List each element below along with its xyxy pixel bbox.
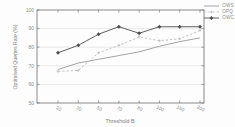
marker-diamond bbox=[117, 25, 121, 29]
legend-marker-diamond bbox=[210, 16, 214, 20]
x-tick-label: 20 bbox=[55, 105, 62, 112]
x-tick-label: 80 bbox=[136, 105, 143, 112]
x-tick-label: 200 bbox=[196, 105, 206, 113]
marker-diamond bbox=[178, 25, 182, 29]
y-tick-label: 60 bbox=[28, 81, 34, 87]
legend-entry-owc: OWC bbox=[203, 15, 234, 21]
y-tick-labels: 5060708090100 bbox=[26, 7, 35, 106]
gridlines bbox=[37, 29, 204, 85]
x-tick-labels: 2030507080100150200 bbox=[55, 105, 206, 113]
x-tick-label: 50 bbox=[96, 105, 103, 112]
x-axis-title: Threshold B bbox=[105, 118, 134, 124]
marker-diamond bbox=[137, 31, 141, 35]
series-line-ows bbox=[58, 38, 200, 70]
legend-line-sample bbox=[203, 15, 220, 21]
chart-figure: 2030507080100150200 5060708090100 Thresh… bbox=[0, 0, 235, 127]
marker-diamond bbox=[157, 25, 161, 29]
y-tick-label: 70 bbox=[28, 63, 34, 69]
marker-diamond bbox=[198, 25, 202, 29]
chart-svg: 2030507080100150200 5060708090100 Thresh… bbox=[0, 0, 235, 127]
marker-diamond bbox=[56, 51, 60, 55]
legend: OWSOPQOWC bbox=[203, 3, 234, 21]
y-tick-label: 90 bbox=[28, 25, 34, 31]
x-tick-label: 100 bbox=[155, 105, 165, 113]
series-line-owc bbox=[58, 27, 200, 53]
series-line-opq bbox=[58, 30, 200, 71]
y-tick-label: 50 bbox=[28, 100, 34, 106]
y-axis-title: Optimised Queries Rate (%) bbox=[12, 24, 18, 89]
plot-frame bbox=[37, 10, 204, 103]
x-tick-label: 70 bbox=[116, 105, 123, 112]
x-tick-label: 30 bbox=[75, 105, 82, 112]
marker-diamond bbox=[76, 43, 80, 47]
y-tick-label: 80 bbox=[28, 44, 34, 50]
x-tick-label: 150 bbox=[176, 105, 186, 113]
legend-label: OWC bbox=[222, 15, 234, 21]
marker-diamond bbox=[97, 32, 101, 36]
axis-ticks bbox=[37, 10, 204, 103]
y-tick-label: 100 bbox=[26, 7, 35, 13]
